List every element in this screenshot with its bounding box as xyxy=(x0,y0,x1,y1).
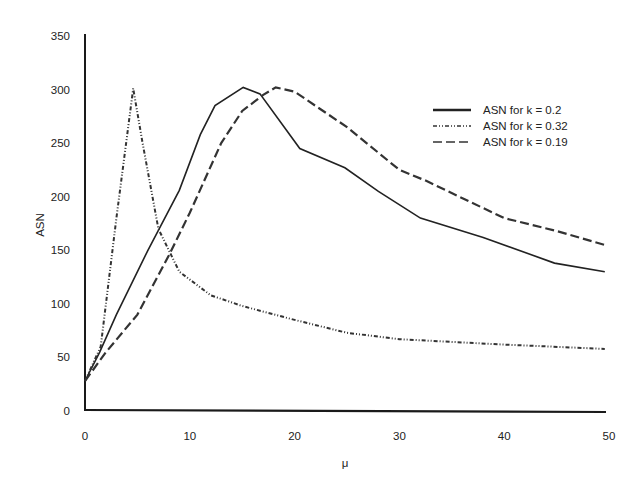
y-tick-label: 250 xyxy=(51,137,70,149)
y-tick-label: 300 xyxy=(51,84,70,96)
legend: ASN for k = 0.2 ASN for k = 0.32 ASN for… xyxy=(433,104,568,148)
y-tick-label: 100 xyxy=(51,298,70,310)
line-chart: 050100150200250300350 01020304050 ASN μ … xyxy=(0,0,643,485)
x-axis-ticks: 01020304050 xyxy=(82,430,616,442)
y-tick-label: 50 xyxy=(57,351,70,363)
x-tick-label: 20 xyxy=(288,430,301,442)
x-tick-label: 0 xyxy=(82,430,88,442)
y-tick-label: 150 xyxy=(51,244,70,256)
x-tick-label: 40 xyxy=(498,430,511,442)
y-tick-label: 200 xyxy=(51,191,70,203)
y-tick-label: 0 xyxy=(64,405,70,417)
x-tick-label: 10 xyxy=(183,430,196,442)
x-tick-label: 30 xyxy=(393,430,406,442)
y-axis-label: ASN xyxy=(34,213,46,237)
series-line-k-0-32 xyxy=(85,89,605,382)
x-axis-label: μ xyxy=(342,457,349,469)
legend-label-k-0-19: ASN for k = 0.19 xyxy=(483,136,568,148)
legend-label-k-0-32: ASN for k = 0.32 xyxy=(483,120,568,132)
y-tick-label: 350 xyxy=(51,30,70,42)
x-tick-label: 50 xyxy=(603,430,616,442)
y-axis-ticks: 050100150200250300350 xyxy=(51,30,70,417)
x-axis-line xyxy=(84,410,606,412)
legend-label-k-0-2: ASN for k = 0.2 xyxy=(483,104,561,116)
